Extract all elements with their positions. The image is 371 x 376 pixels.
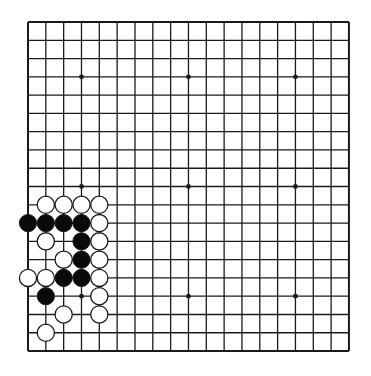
star-point bbox=[79, 74, 84, 79]
white-stone bbox=[19, 269, 36, 286]
white-stone bbox=[91, 269, 108, 286]
white-stone bbox=[73, 196, 90, 213]
black-stone bbox=[55, 269, 72, 286]
star-point bbox=[186, 184, 191, 189]
white-stone bbox=[91, 196, 108, 213]
white-stone bbox=[37, 269, 54, 286]
star-point bbox=[293, 294, 298, 299]
white-stone bbox=[37, 233, 54, 250]
star-point bbox=[79, 184, 84, 189]
white-stone bbox=[37, 324, 54, 341]
white-stone bbox=[37, 196, 54, 213]
white-stone bbox=[91, 214, 108, 231]
black-stone bbox=[19, 214, 36, 231]
white-stone bbox=[91, 251, 108, 268]
white-stone bbox=[91, 233, 108, 250]
black-stone bbox=[73, 269, 90, 286]
white-stone bbox=[55, 196, 72, 213]
black-stone bbox=[37, 288, 54, 305]
star-point bbox=[186, 74, 191, 79]
white-stone bbox=[91, 306, 108, 323]
black-stone bbox=[73, 233, 90, 250]
white-stone bbox=[55, 251, 72, 268]
black-stone bbox=[73, 251, 90, 268]
white-stone bbox=[55, 306, 72, 323]
white-stone bbox=[91, 288, 108, 305]
star-point bbox=[293, 184, 298, 189]
stones-layer bbox=[19, 196, 108, 341]
black-stone bbox=[37, 214, 54, 231]
star-point bbox=[79, 294, 84, 299]
go-board[interactable] bbox=[0, 0, 371, 376]
star-point bbox=[293, 74, 298, 79]
black-stone bbox=[73, 214, 90, 231]
star-point bbox=[186, 294, 191, 299]
black-stone bbox=[55, 214, 72, 231]
